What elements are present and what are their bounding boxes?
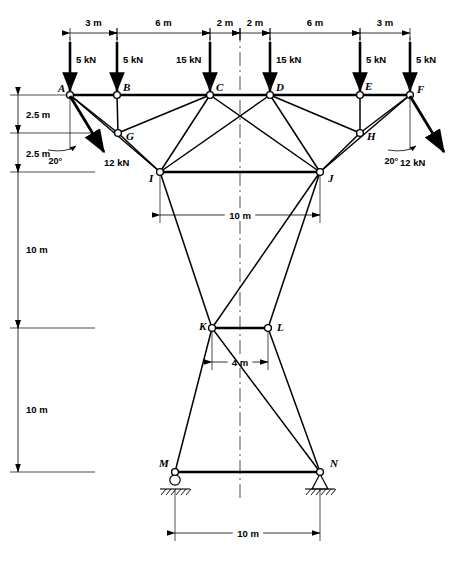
joint-label-E: E bbox=[364, 80, 372, 92]
angle-arc-A bbox=[48, 146, 76, 151]
internal-dim-label-2: 10 m bbox=[237, 528, 259, 539]
truss-member-BG bbox=[117, 95, 118, 133]
top-dim-label-1: 6 m bbox=[155, 17, 171, 28]
ground-hatch-N-5 bbox=[331, 489, 336, 495]
angle-arc-F bbox=[388, 146, 416, 151]
joint-label-H: H bbox=[366, 130, 376, 142]
truss-member-DJ bbox=[270, 95, 320, 172]
load-label-D: 15 kN bbox=[276, 54, 301, 65]
joint-label-L: L bbox=[276, 321, 284, 333]
load-arrows: 5 kN5 kN15 kN15 kN5 kN5 kN20°12 kN20°12 … bbox=[48, 42, 444, 168]
ground-hatch-N-4 bbox=[326, 489, 331, 495]
roller-circle-M bbox=[170, 475, 180, 485]
truss-member-IK bbox=[160, 172, 212, 328]
truss-member-JK bbox=[212, 172, 320, 328]
joint-label-N: N bbox=[329, 457, 339, 469]
load-label-C: 15 kN bbox=[176, 54, 201, 65]
joint-E bbox=[357, 92, 364, 99]
truss-canvas: 3 m6 m2 m2 m6 m3 m 2.5 m2.5 m10 m10 m 10… bbox=[0, 0, 455, 561]
joint-label-C: C bbox=[216, 81, 224, 93]
support-M-roller bbox=[160, 475, 191, 495]
truss-member-LN bbox=[268, 328, 320, 472]
joint-K bbox=[209, 325, 216, 332]
ground-hatch-M-4 bbox=[181, 489, 186, 495]
left-dim-label-0: 2.5 m bbox=[26, 109, 50, 120]
joint-G bbox=[115, 130, 122, 137]
internal-dim-label-0: 10 m bbox=[229, 210, 251, 221]
truss-member-CI bbox=[160, 95, 210, 172]
left-dim-label-2: 10 m bbox=[26, 244, 48, 255]
joint-B bbox=[114, 92, 121, 99]
joint-H bbox=[357, 130, 364, 137]
angle-label-A: 20° bbox=[48, 156, 62, 166]
joint-label-G: G bbox=[126, 130, 134, 142]
joint-label-J: J bbox=[327, 172, 334, 184]
angle-label-F: 20° bbox=[384, 156, 398, 166]
left-dim-label-3: 10 m bbox=[26, 404, 48, 415]
joint-labels: ABCDEFGHIJKLMN bbox=[57, 80, 425, 469]
joint-M bbox=[172, 469, 179, 476]
truss-diagram: 3 m6 m2 m2 m6 m3 m 2.5 m2.5 m10 m10 m 10… bbox=[0, 0, 455, 561]
joint-label-I: I bbox=[148, 172, 154, 184]
ground-hatch-M-5 bbox=[186, 489, 191, 495]
top-dim-label-5: 3 m bbox=[377, 17, 393, 28]
ground-hatch-M-0 bbox=[161, 489, 166, 495]
ground-hatch-N-3 bbox=[321, 489, 326, 495]
top-dim-label-2: 2 m bbox=[217, 17, 233, 28]
joint-C bbox=[207, 92, 214, 99]
oblique-load-arrow-A bbox=[70, 96, 104, 152]
ground-hatch-M-1 bbox=[166, 489, 171, 495]
truss-member-KN bbox=[212, 328, 320, 472]
ground-hatch-N-0 bbox=[306, 489, 311, 495]
top-dim-label-0: 3 m bbox=[85, 17, 101, 28]
truss-member-KM bbox=[175, 328, 212, 472]
ground-hatch-N-1 bbox=[311, 489, 316, 495]
load-label-E: 5 kN bbox=[366, 54, 386, 65]
pin-triangle-N bbox=[312, 474, 328, 489]
support-N-pin bbox=[305, 474, 336, 495]
truss-member-DH bbox=[270, 95, 360, 133]
load-label-F: 5 kN bbox=[416, 54, 436, 65]
truss-member-CJ bbox=[210, 95, 320, 172]
truss-member-DI bbox=[160, 95, 270, 172]
top-dimension-chain: 3 m6 m2 m2 m6 m3 m bbox=[70, 17, 410, 44]
load-label-B: 5 kN bbox=[123, 54, 143, 65]
joint-label-B: B bbox=[122, 81, 130, 93]
supports bbox=[160, 474, 336, 495]
oblique-load-label-A: 12 kN bbox=[104, 157, 129, 168]
oblique-load-label-F: 12 kN bbox=[400, 157, 425, 168]
joint-D bbox=[267, 92, 274, 99]
top-dim-label-4: 6 m bbox=[307, 17, 323, 28]
joint-label-K: K bbox=[198, 320, 207, 332]
load-label-A: 5 kN bbox=[76, 54, 96, 65]
joint-J bbox=[317, 169, 324, 176]
ground-hatch-M-3 bbox=[176, 489, 181, 495]
joint-label-A: A bbox=[57, 82, 65, 94]
oblique-load-arrow-F bbox=[410, 96, 444, 152]
joint-label-F: F bbox=[416, 83, 425, 95]
top-dim-label-3: 2 m bbox=[247, 17, 263, 28]
left-dim-label-1: 2.5 m bbox=[26, 148, 50, 159]
joint-I bbox=[157, 169, 164, 176]
truss-member-GC bbox=[118, 95, 210, 133]
joint-label-M: M bbox=[158, 457, 170, 469]
truss-member-HJ bbox=[320, 133, 360, 172]
truss-member-JL bbox=[268, 172, 320, 328]
left-dimension-chain: 2.5 m2.5 m10 m10 m bbox=[10, 95, 95, 472]
joint-label-D: D bbox=[275, 81, 284, 93]
joint-N bbox=[317, 469, 324, 476]
joint-L bbox=[265, 325, 272, 332]
